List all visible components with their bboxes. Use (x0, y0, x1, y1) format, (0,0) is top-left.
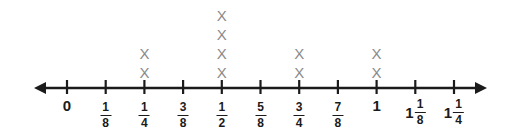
x-mark: X (217, 8, 227, 23)
x-mark: X (139, 65, 149, 80)
whole-number-part: 1 (444, 105, 452, 120)
fraction-denominator: 4 (454, 114, 463, 127)
fraction-denominator: 8 (101, 117, 110, 130)
mixed-number: 78 (332, 101, 343, 130)
fraction: 38 (178, 101, 189, 130)
axis-arrow-left-icon (34, 82, 46, 94)
whole-number-label: 1 (372, 97, 380, 114)
tick-label: 14 (139, 98, 150, 130)
fraction: 14 (139, 101, 150, 130)
number-line-plot: 0181438125834781118114 XXXXXXXXXX (0, 0, 521, 133)
tick-label: 118 (405, 98, 425, 127)
fraction-denominator: 4 (295, 117, 304, 130)
mixed-number: 34 (294, 101, 305, 130)
fraction-denominator: 8 (416, 114, 425, 127)
fraction-numerator: 1 (101, 101, 110, 114)
tick-label: 0 (63, 98, 71, 114)
fraction: 18 (414, 98, 425, 127)
mixed-number: 58 (255, 101, 266, 130)
mixed-number: 18 (100, 101, 111, 130)
tick-label: 18 (100, 98, 111, 130)
mixed-number: 118 (405, 98, 425, 127)
fraction-numerator: 1 (217, 101, 226, 114)
fraction: 34 (294, 101, 305, 130)
x-mark: X (217, 46, 227, 61)
whole-number-part: 1 (405, 105, 413, 120)
tick-label: 1 (372, 98, 380, 114)
mixed-number: 114 (444, 98, 464, 127)
fraction: 14 (453, 98, 464, 127)
fraction-denominator: 8 (179, 117, 188, 130)
x-mark: X (372, 46, 382, 61)
x-mark: X (217, 65, 227, 80)
fraction: 18 (100, 101, 111, 130)
tick-label: 78 (332, 98, 343, 130)
fraction-denominator: 8 (334, 117, 343, 130)
fraction: 78 (332, 101, 343, 130)
fraction-numerator: 1 (454, 98, 463, 111)
x-mark: X (294, 65, 304, 80)
tick-label: 34 (294, 98, 305, 130)
whole-number-label: 0 (63, 97, 71, 114)
x-mark: X (139, 46, 149, 61)
fraction-denominator: 8 (256, 117, 265, 130)
mixed-number: 12 (216, 101, 227, 130)
fraction: 12 (216, 101, 227, 130)
axis-arrow-right-icon (475, 82, 487, 94)
fraction-numerator: 3 (179, 101, 188, 114)
x-mark: X (294, 46, 304, 61)
fraction-numerator: 1 (140, 101, 149, 114)
x-mark: X (217, 27, 227, 42)
x-mark: X (372, 65, 382, 80)
tick-label: 114 (444, 98, 464, 127)
fraction: 58 (255, 101, 266, 130)
fraction-numerator: 7 (334, 101, 343, 114)
mixed-number: 14 (139, 101, 150, 130)
axis-group (34, 80, 487, 94)
fraction-numerator: 1 (416, 98, 425, 111)
fraction-numerator: 3 (295, 101, 304, 114)
fraction-denominator: 2 (217, 117, 226, 130)
tick-label: 12 (216, 98, 227, 130)
tick-label: 58 (255, 98, 266, 130)
fraction-denominator: 4 (140, 117, 149, 130)
mixed-number: 38 (178, 101, 189, 130)
fraction-numerator: 5 (256, 101, 265, 114)
tick-label: 38 (178, 98, 189, 130)
